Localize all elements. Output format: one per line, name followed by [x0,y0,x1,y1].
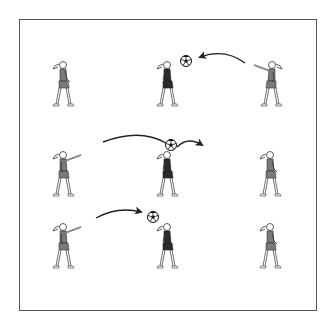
player-9 [260,224,281,269]
player-7 [53,224,81,269]
player-8 [157,224,178,269]
player-4 [53,152,81,197]
player-3 [254,62,282,107]
ball-icon [181,56,192,67]
ball-icon [148,212,159,223]
pass-arrow-3 [177,141,202,147]
player-6 [260,152,281,197]
pass-arrow-4 [96,210,141,218]
player-5 [157,152,178,197]
drill-diagram [0,0,334,330]
player-2 [157,62,178,107]
pass-arrow-2 [103,135,166,143]
ball-icon [166,140,177,151]
player-1 [53,62,74,107]
pass-arrow-1 [200,54,245,63]
